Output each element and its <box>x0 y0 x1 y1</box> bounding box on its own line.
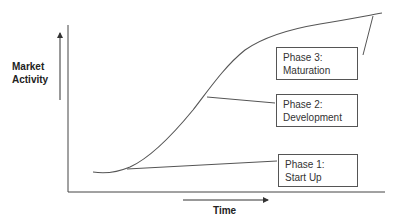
phase-2-name: Development <box>283 111 351 124</box>
phase-3-leader-line <box>363 16 373 55</box>
phase-2-box: Phase 2: Development <box>276 94 358 127</box>
phase-3-name: Maturation <box>283 64 351 77</box>
phase-1-box: Phase 1: Start Up <box>278 154 358 187</box>
phase-3-box: Phase 3: Maturation <box>276 47 358 80</box>
phase-3-title: Phase 3: <box>283 51 351 64</box>
phase-1-leader-line <box>127 161 277 169</box>
phase-2-title: Phase 2: <box>283 98 351 111</box>
s-curve <box>93 13 382 173</box>
x-axis-label: Time <box>213 205 236 216</box>
y-axis-label-line-1: Market <box>12 60 58 73</box>
phase-1-title: Phase 1: <box>285 158 351 171</box>
y-axis-label: Market Activity <box>12 60 58 86</box>
phase-1-name: Start Up <box>285 171 351 184</box>
y-axis-label-line-2: Activity <box>12 73 58 86</box>
phase-2-leader-line <box>207 97 275 103</box>
